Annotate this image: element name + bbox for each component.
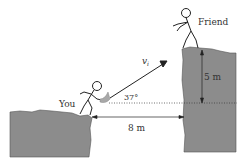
- friend-figure: [173, 9, 198, 49]
- velocity-label: vi: [142, 56, 149, 67]
- distance-arrow: [92, 116, 184, 119]
- projectile-diagram: 5 m 8 m vi 37° You Friend: [0, 0, 245, 165]
- height-label: 5 m: [204, 72, 222, 82]
- right-cliff: [182, 47, 236, 152]
- distance-label: 8 m: [128, 123, 146, 133]
- left-cliff: [10, 110, 92, 157]
- ball-icon: [100, 92, 110, 103]
- you-label: You: [58, 99, 76, 109]
- angle-label: 37°: [124, 93, 138, 102]
- friend-label: Friend: [198, 17, 229, 27]
- you-figure: [80, 82, 102, 116]
- velocity-arrow: [110, 61, 167, 98]
